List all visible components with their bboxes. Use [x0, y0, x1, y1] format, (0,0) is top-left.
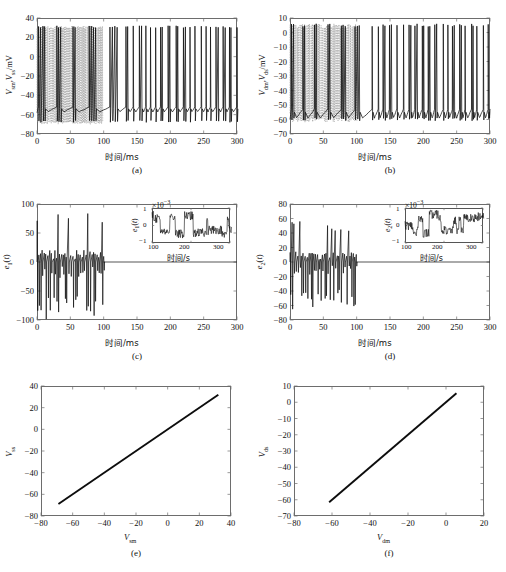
panel-c-inset-x-axis-label: 时间/s [167, 252, 190, 263]
panel-b-xtick: 100 [350, 137, 363, 146]
panel-d-inset-trace [253, 186, 506, 372]
panel-c: 100 50 0 −50 −100 0 50 100 150 200 250 3… [0, 186, 253, 372]
panel-f-y-axis-label: Vds [257, 434, 269, 470]
panel-e-ytick: 40 [10, 382, 38, 391]
panel-b-xtick: 300 [484, 137, 497, 146]
panel-d-inset-y-axis-label: e2(t) [383, 205, 394, 245]
panel-e-xtick: 40 [227, 519, 236, 528]
panel-f-xtick: −60 [325, 519, 338, 528]
panel-c-inset-trace [0, 186, 253, 372]
panel-a-ytick: 40 [8, 14, 34, 23]
panel-f-ytick: −50 [263, 479, 291, 488]
panel-e: 40 20 0 −20 −40 −60 −80 −80 −60 −40 −20 … [0, 372, 253, 572]
panel-c-inset-xtick: 100 [148, 244, 159, 251]
panel-e-ytick: −60 [10, 490, 38, 499]
panel-e-ytick: 0 [10, 425, 38, 434]
panel-e-x-axis-label: Vsm [124, 532, 136, 544]
panel-e-caption: (e) [106, 548, 166, 558]
panel-b-caption: (b) [360, 165, 420, 175]
panel-f-ytick: 0 [263, 398, 291, 407]
panel-b-ytick: 10 [261, 14, 287, 23]
panel-a: 40 20 0 −20 −40 −60 −80 0 50 100 150 200… [0, 0, 253, 186]
panel-c-inset-ytick: 1 [143, 206, 147, 213]
panel-c-inset-y-axis-label: e1(t) [130, 205, 141, 245]
panel-a-xtick: 300 [231, 137, 244, 146]
panel-d-inset-x-axis-label: 时间/s [420, 252, 443, 263]
panel-e-ytick: 20 [10, 403, 38, 412]
panel-d-inset-ytick: 0 [396, 222, 400, 229]
panel-b-xtick: 0 [288, 137, 292, 146]
panel-a-xtick: 200 [164, 137, 177, 146]
panel-f-ytick: −60 [263, 496, 291, 505]
panel-c-inset-multiplier: ×10−3 [152, 198, 170, 210]
panel-e-y-axis-label: Vss [4, 434, 16, 470]
panel-b-y-axis-label: Vdm,Vds/mV [257, 37, 269, 113]
panel-f: 10 0 −10 −20 −30 −40 −50 −60 −70 −80 −60… [253, 372, 506, 572]
panel-a-ytick: −80 [8, 130, 34, 139]
panel-d: 80 60 40 20 0 −20 −40 −60 −80 0 50 100 1… [253, 186, 506, 372]
panel-f-ytick: −10 [263, 414, 291, 423]
panel-a-xtick: 0 [35, 137, 39, 146]
panel-b-x-axis-label: 时间/ms [358, 150, 392, 162]
panel-b-ytick: −70 [261, 130, 287, 139]
panel-b-xtick: 200 [417, 137, 430, 146]
panel-f-xtick: −40 [363, 519, 376, 528]
panel-e-xtick: 0 [166, 519, 170, 528]
panel-a-xtick: 150 [131, 137, 144, 146]
panel-e-xtick: −60 [66, 519, 79, 528]
panel-d-inset-xtick: 100 [401, 244, 412, 251]
panel-a-caption: (a) [107, 165, 167, 175]
panel-b-xtick: 150 [384, 137, 397, 146]
panel-d-inset-ytick: 1 [396, 206, 400, 213]
panel-c-inset-ytick: 0 [143, 222, 147, 229]
panel-f-xtick: −20 [401, 519, 414, 528]
panel-b-xtick: 250 [450, 137, 463, 146]
panel-f-caption: (f) [359, 548, 419, 558]
panel-b-ytick: 0 [261, 28, 287, 37]
panel-e-xtick: −80 [34, 519, 47, 528]
panel-a-xtick: 250 [197, 137, 210, 146]
panel-c-inset-xtick: 300 [213, 244, 224, 251]
panel-c-inset-xtick: 200 [179, 244, 190, 251]
figure-panel-grid: 40 20 0 −20 −40 −60 −80 0 50 100 150 200… [0, 0, 506, 572]
panel-a-x-axis-label: 时间/ms [105, 150, 139, 162]
panel-f-x-axis-label: Vdm [377, 532, 390, 544]
panel-f-xtick: −80 [287, 519, 300, 528]
panel-f-ytick: 10 [263, 382, 291, 391]
panel-e-xtick: 20 [195, 519, 204, 528]
panel-d-inset-xtick: 300 [466, 244, 477, 251]
panel-d-inset-multiplier: ×10−3 [405, 198, 423, 210]
panel-b-xtick: 50 [319, 137, 328, 146]
panel-e-xtick: −20 [129, 519, 142, 528]
panel-a-xtick: 50 [66, 137, 75, 146]
panel-d-inset-xtick: 200 [432, 244, 443, 251]
panel-a-xtick: 100 [97, 137, 110, 146]
panel-f-xtick: 0 [444, 519, 448, 528]
panel-a-y-axis-label: Vsm,Vss/mV [4, 37, 16, 113]
panel-e-xtick: −40 [98, 519, 111, 528]
panel-b-ytick: −60 [261, 115, 287, 124]
panel-b: 10 0 −10 −20 −30 −40 −50 −60 −70 0 50 10… [253, 0, 506, 186]
panel-f-xtick: 20 [480, 519, 489, 528]
